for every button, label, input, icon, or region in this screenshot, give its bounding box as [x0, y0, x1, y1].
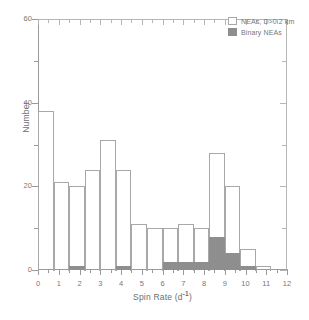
x-tick-label: 6	[153, 279, 173, 288]
plot-area	[38, 19, 287, 270]
histogram-bar-binary-neas	[69, 266, 85, 270]
open-box-icon	[228, 17, 237, 25]
histogram-bar-neas	[54, 182, 70, 271]
histogram-bar-binary-neas	[240, 266, 256, 270]
histogram-bar-binary-neas	[163, 262, 179, 270]
x-tick-label: 5	[132, 279, 152, 288]
x-axis-title: Spin Rate (d-1)	[38, 292, 287, 302]
y-tick-major-right	[280, 270, 287, 271]
y-tick-label: 20	[23, 182, 32, 190]
histogram-bar-neas	[131, 224, 147, 271]
x-axis-title-tail: )	[189, 292, 192, 302]
histogram-bar-neas	[69, 186, 85, 271]
x-tick-label: 11	[256, 279, 276, 288]
y-tick-label: 60	[23, 15, 32, 23]
x-tick-label: 2	[70, 279, 90, 288]
legend-label-binary-neas: Binary NEAs	[241, 28, 282, 37]
histogram-bar-neas	[38, 111, 54, 271]
histogram-bar-neas	[116, 170, 132, 271]
y-axis-title: Number	[21, 77, 31, 157]
x-tick-label: 3	[90, 279, 110, 288]
histogram-bar-neas	[256, 266, 272, 271]
spin-rate-histogram-figure: 02040600123456789101112 Number Spin Rate…	[0, 0, 309, 320]
x-tick-label: 9	[215, 279, 235, 288]
histogram-bar-binary-neas	[116, 266, 132, 270]
legend-label-neas: NEAs, D>0.2 km	[241, 17, 294, 26]
x-tick-label: 1	[49, 279, 69, 288]
x-tick-label: 0	[28, 279, 48, 288]
histogram-bar-binary-neas	[209, 237, 225, 270]
x-tick-label: 8	[194, 279, 214, 288]
histogram-bar-binary-neas	[225, 253, 241, 270]
legend-entry-neas: NEAs, D>0.2 km	[228, 16, 294, 26]
x-tick-major	[287, 269, 288, 275]
legend: NEAs, D>0.2 km Binary NEAs	[228, 16, 294, 38]
y-tick-label: 0	[28, 266, 32, 274]
filled-box-icon	[228, 28, 237, 36]
legend-entry-binary-neas: Binary NEAs	[228, 27, 294, 37]
histogram-bar-binary-neas	[178, 262, 194, 270]
histogram-bar-neas	[147, 228, 163, 271]
x-tick-label: 4	[111, 279, 131, 288]
histogram-bar-binary-neas	[194, 262, 210, 270]
x-tick-label: 7	[173, 279, 193, 288]
x-tick-label: 12	[277, 279, 297, 288]
x-axis-title-main: Spin Rate (d	[133, 292, 183, 302]
histogram-bar-neas	[100, 140, 116, 271]
histogram-bar-neas	[85, 170, 101, 271]
x-tick-label: 10	[236, 279, 256, 288]
